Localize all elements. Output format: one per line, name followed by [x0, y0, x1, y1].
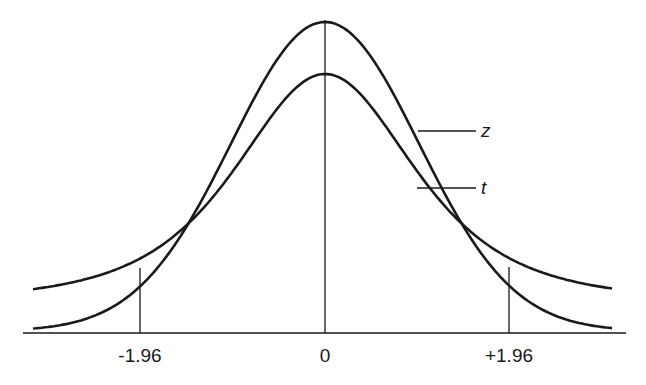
distribution-chart: z t -1.96 0 +1.96 [0, 0, 646, 385]
tick-label-zero: 0 [320, 345, 331, 366]
tick-label-neg: -1.96 [118, 345, 161, 366]
z-curve [33, 22, 612, 329]
tick-label-pos: +1.96 [485, 345, 533, 366]
z-label: z [480, 120, 491, 141]
t-curve [33, 74, 612, 289]
t-label: t [481, 177, 487, 198]
